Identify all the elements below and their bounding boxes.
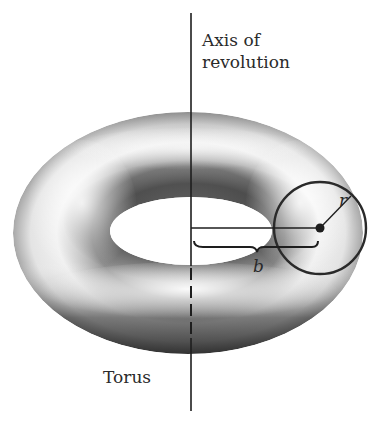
torus-illustration bbox=[0, 0, 385, 423]
torus-label: Torus bbox=[103, 366, 151, 388]
torus-diagram: Axis of revolution r b Torus bbox=[0, 0, 385, 423]
axis-label-line1: Axis of bbox=[202, 29, 290, 51]
axis-label-line2: revolution bbox=[202, 51, 290, 73]
radius-label-r: r bbox=[339, 190, 347, 210]
distance-label-b: b bbox=[253, 256, 264, 276]
axis-of-revolution-label: Axis of revolution bbox=[202, 29, 290, 73]
